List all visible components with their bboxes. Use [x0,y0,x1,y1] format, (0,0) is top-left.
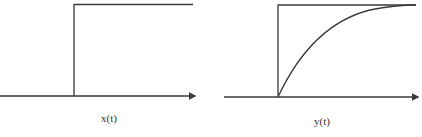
x-step-signal [74,5,193,97]
diagram-canvas [0,0,422,137]
panel-y [224,5,418,97]
x-signal-label: x(t) [101,112,117,124]
panel-x [0,5,195,97]
y-signal-label: y(t) [314,115,330,127]
y-exponential-response [278,5,416,97]
